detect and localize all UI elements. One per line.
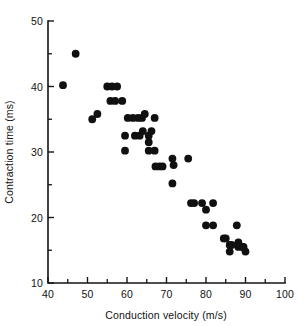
data-point: [209, 199, 217, 207]
y-tick-label: 10: [31, 277, 43, 289]
data-point: [190, 199, 198, 207]
axis-ticks: [48, 21, 285, 283]
x-tick-label: 90: [239, 288, 251, 300]
data-point: [198, 199, 206, 207]
data-point: [145, 138, 153, 146]
data-point: [111, 97, 119, 105]
data-point: [240, 243, 248, 251]
axes: [48, 21, 285, 283]
data-point: [121, 147, 129, 155]
data-point: [151, 147, 159, 155]
data-point: [209, 221, 217, 229]
data-point: [141, 110, 149, 118]
data-point: [220, 235, 228, 243]
data-point: [118, 97, 126, 105]
data-point: [159, 163, 167, 171]
axis-lines: [48, 21, 285, 283]
axis-tick-labels: 4050607080901001020304050: [31, 15, 294, 300]
data-point: [136, 132, 144, 140]
data-point: [148, 127, 156, 135]
data-point: [93, 110, 101, 118]
x-tick-label: 50: [81, 288, 93, 300]
data-point: [151, 114, 159, 122]
data-points: [59, 50, 249, 256]
data-point: [59, 81, 67, 89]
x-tick-label: 100: [276, 288, 294, 300]
y-tick-label: 20: [31, 212, 43, 224]
data-point: [169, 155, 177, 163]
y-tick-label: 40: [31, 81, 43, 93]
y-tick-label: 30: [31, 146, 43, 158]
y-axis-label: Contraction time (ms): [3, 100, 15, 204]
x-tick-label: 60: [121, 288, 133, 300]
x-tick-label: 80: [200, 288, 212, 300]
y-tick-label: 50: [31, 15, 43, 27]
data-point: [170, 161, 178, 169]
plot-canvas: 4050607080901001020304050 Conduction vel…: [0, 0, 305, 326]
data-point: [121, 132, 129, 140]
data-point: [169, 180, 177, 188]
data-point: [202, 221, 210, 229]
data-point: [113, 83, 121, 91]
x-axis-label: Conduction velocity (m/s): [105, 309, 227, 321]
data-point: [184, 155, 192, 163]
data-point: [72, 50, 80, 58]
data-point: [233, 221, 241, 229]
data-point: [228, 241, 236, 249]
x-tick-label: 70: [160, 288, 172, 300]
data-point: [202, 206, 210, 214]
x-tick-label: 40: [42, 288, 54, 300]
scatter-plot-figure: 4050607080901001020304050 Conduction vel…: [0, 0, 305, 326]
